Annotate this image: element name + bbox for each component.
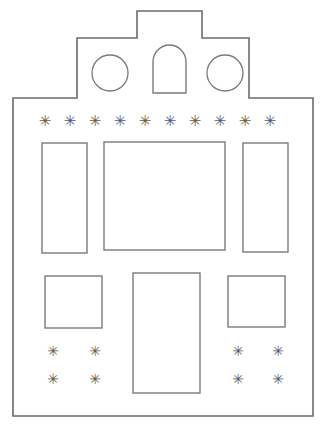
star-icon: ✳ <box>232 371 244 387</box>
right-round-window <box>207 55 243 91</box>
left-round-window <box>92 55 128 91</box>
house-facade-drawing: Stepped Gable House Facade Template ✳ ✳ … <box>0 0 326 432</box>
star-icon: ✳ <box>39 112 52 130</box>
upper-center-window <box>104 142 225 250</box>
lower-left-window <box>45 276 102 328</box>
star-icon: ✳ <box>264 112 277 130</box>
star-icon: ✳ <box>189 112 202 130</box>
upper-right-window <box>243 143 288 252</box>
star-icon: ✳ <box>164 112 177 130</box>
star-icon: ✳ <box>239 112 252 130</box>
star-icon: ✳ <box>47 343 59 359</box>
star-icon: ✳ <box>114 112 127 130</box>
center-arch-window <box>153 45 186 93</box>
star-icon: ✳ <box>272 343 284 359</box>
drawing-canvas: Stepped Gable House Facade Template ✳ ✳ … <box>0 0 326 432</box>
star-icon: ✳ <box>89 371 101 387</box>
star-icon: ✳ <box>139 112 152 130</box>
star-icon: ✳ <box>272 371 284 387</box>
star-icon: ✳ <box>89 343 101 359</box>
star-icon: ✳ <box>47 371 59 387</box>
star-icon: ✳ <box>214 112 227 130</box>
lower-right-window <box>228 276 285 327</box>
star-icon: ✳ <box>232 343 244 359</box>
star-icon: ✳ <box>64 112 77 130</box>
upper-left-window <box>42 143 87 253</box>
star-icon: ✳ <box>89 112 102 130</box>
front-door <box>133 273 200 393</box>
